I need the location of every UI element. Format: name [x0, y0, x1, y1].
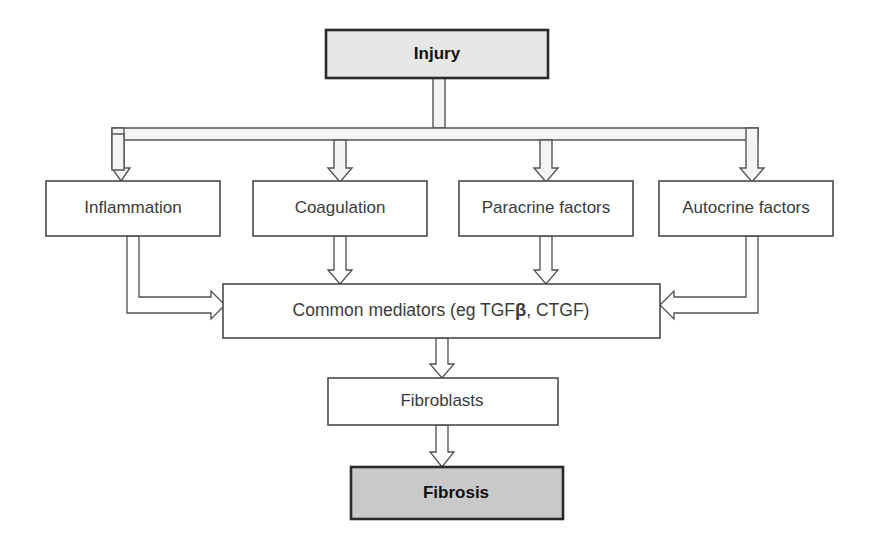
connector-injury-to-bus — [433, 78, 445, 128]
connector-autocrine-to-mediators — [660, 236, 758, 319]
connector-coagulation-to-mediators — [328, 236, 352, 284]
connector-inflammation-to-mediators — [127, 236, 225, 319]
connector-mediators-to-fibroblasts — [430, 338, 454, 378]
node-fibroblasts-label: Fibroblasts — [400, 391, 483, 410]
node-common-mediators-label-prefix: Common mediators (eg TGF — [293, 300, 515, 320]
node-common-mediators-label-suffix: , CTGF) — [526, 300, 589, 320]
connector-bus-to-coagulation — [328, 140, 352, 182]
connector-distribution-bus — [112, 128, 758, 140]
node-inflammation-label: Inflammation — [84, 198, 181, 217]
node-autocrine-factors-label: Autocrine factors — [682, 198, 810, 217]
node-injury-label: Injury — [414, 44, 461, 63]
node-coagulation-label: Coagulation — [295, 198, 386, 217]
connector-paracrine-to-mediators — [534, 236, 558, 284]
node-common-mediators-label: Common mediators (eg TGFβ, CTGF) — [293, 299, 590, 320]
fibrosis-flowchart: Injury Inflammation Coagulation Paracrin… — [0, 0, 873, 552]
node-fibrosis-label: Fibrosis — [423, 483, 489, 502]
flowchart-canvas: Injury Inflammation Coagulation Paracrin… — [0, 0, 873, 552]
connector-bus-to-paracrine — [534, 140, 558, 182]
node-common-mediators-label-beta: β — [515, 299, 526, 320]
connector-fibroblasts-to-fibrosis — [430, 425, 454, 467]
connector-bus-to-inflammation-shaft — [112, 134, 124, 170]
node-paracrine-factors-label: Paracrine factors — [482, 198, 611, 217]
